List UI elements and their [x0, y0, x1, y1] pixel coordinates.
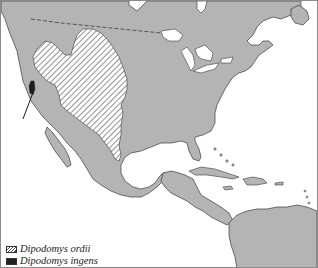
legend-item-ingens: Dipodomys ingens: [6, 255, 98, 267]
bahamas: [214, 148, 234, 166]
legend-item-ordii: Dipodomys ordii: [6, 243, 98, 255]
map-legend: Dipodomys ordii Dipodomys ingens: [6, 243, 98, 267]
lesser-antilles: [304, 190, 310, 204]
ingens-pointer-arrow: [23, 95, 32, 119]
hatched-swatch-icon: [6, 246, 17, 253]
solid-swatch-icon: [6, 258, 17, 265]
legend-label-ingens: Dipodomys ingens: [20, 255, 98, 267]
north-america-landmass: [1, 1, 301, 197]
jamaica: [223, 186, 233, 190]
legend-label-ordii: Dipodomys ordii: [20, 243, 91, 255]
south-america: [229, 205, 317, 268]
range-map: [1, 1, 318, 268]
central-america: [161, 171, 233, 225]
puerto-rico: [275, 182, 283, 185]
hispaniola: [243, 177, 267, 185]
newfoundland: [291, 5, 309, 25]
map-frame: Dipodomys ordii Dipodomys ingens: [0, 0, 318, 268]
cuba: [189, 167, 239, 179]
